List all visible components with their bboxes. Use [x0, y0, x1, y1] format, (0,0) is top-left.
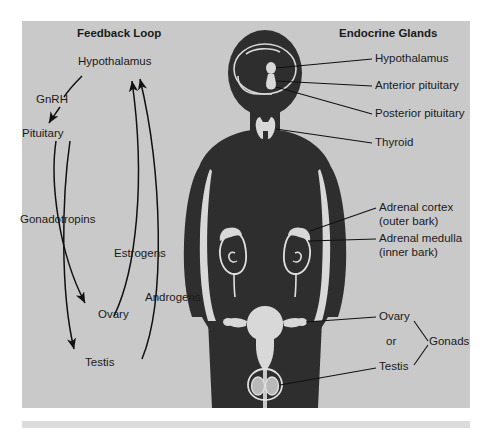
gland-label-adrenal-medulla-sub: (inner bark)	[379, 246, 462, 260]
edge-label-gonadotropins: Gonadotropins	[20, 213, 95, 226]
gland-label-thyroid: Thyroid	[375, 136, 413, 149]
node-testis: Testis	[85, 356, 114, 369]
gland-label-adrenal-cortex: Adrenal cortex	[379, 201, 453, 215]
gland-label-or: or	[386, 335, 396, 348]
gland-label-adrenal-cortex-sub: (outer bark)	[379, 215, 453, 229]
figure-panel: Feedback Loop Endocrine Glands Hypothala…	[22, 21, 470, 408]
edge-label-estrogens: Estrogens	[114, 247, 166, 260]
arrow-pituitary-to-testis	[64, 141, 74, 349]
gland-label-anterior-pituitary: Anterior pituitary	[375, 79, 459, 92]
bottom-strip	[22, 421, 470, 428]
gonads-bracket-top	[414, 321, 428, 341]
arrow-testis-to-hypothalamus	[140, 79, 158, 359]
feedback-loop-title: Feedback Loop	[77, 27, 161, 40]
pituitary-gland	[266, 74, 276, 90]
node-pituitary: Pituitary	[22, 127, 64, 140]
edge-label-gnrh: GnRH	[36, 93, 68, 106]
edge-label-androgens: Androgens	[145, 291, 201, 304]
gland-label-gonads: Gonads	[429, 335, 469, 348]
gland-label-hypothalamus: Hypothalamus	[375, 52, 449, 65]
gland-label-adrenal-medulla: Adrenal medulla	[379, 232, 462, 246]
arrow-ovary-to-hypothalamus	[114, 81, 138, 316]
hypothalamus-gland	[266, 62, 276, 74]
node-hypothalamus: Hypothalamus	[78, 55, 152, 68]
node-ovary: Ovary	[98, 308, 129, 321]
endocrine-glands-title: Endocrine Glands	[339, 27, 437, 40]
gland-label-ovary: Ovary	[379, 310, 410, 323]
gland-label-posterior-pituitary: Posterior pituitary	[375, 107, 464, 120]
gonads-bracket-bottom	[414, 345, 428, 365]
gland-label-testis: Testis	[379, 360, 408, 373]
arrow-gnrh-to-pituitary	[49, 107, 60, 123]
